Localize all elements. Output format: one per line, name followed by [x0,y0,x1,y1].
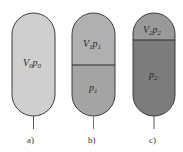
caption-c: c) [149,135,156,145]
diagram-canvas: V0p0 a) V1p1 p1 b) [0,0,183,152]
cylinder-b: V1p1 p1 b) [72,13,115,145]
gas-cylinder-diagram: V0p0 a) V1p1 p1 b) [0,0,183,152]
cylinder-a: V0p0 a) [12,13,55,145]
cylinder-c: V2p2 p2 c) [133,13,175,145]
caption-a: a) [27,135,34,145]
caption-b: b) [88,135,96,145]
